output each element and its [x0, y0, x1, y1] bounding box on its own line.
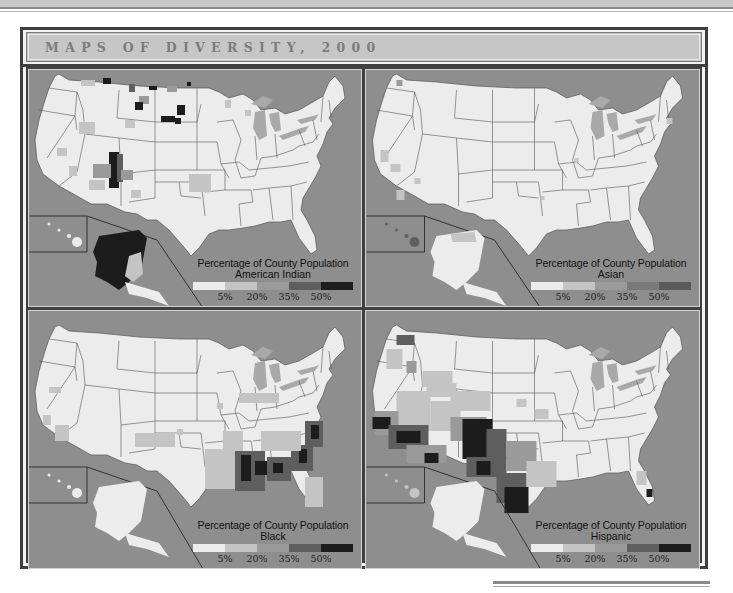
swatch-0-5 — [193, 282, 225, 290]
tick-35: 35% — [616, 291, 637, 302]
legend-ticks: 5% 20% 35% 50% — [193, 552, 353, 564]
page-title: MAPS OF DIVERSITY, 2000 — [45, 40, 382, 55]
map-panel-american-indian: Percentage of County Population American… — [28, 69, 362, 307]
swatch-5-20 — [225, 282, 257, 290]
swatch-50-plus — [659, 282, 691, 290]
legend-asian: Percentage of County Population Asian 5%… — [531, 258, 691, 302]
tick-5: 5% — [217, 553, 232, 564]
swatch-0-5 — [531, 282, 563, 290]
swatch-5-20 — [563, 544, 595, 552]
swatch-50-plus — [321, 544, 353, 552]
swatch-50-plus — [659, 544, 691, 552]
tick-5: 5% — [217, 291, 232, 302]
legend-subtitle: Hispanic — [531, 531, 691, 542]
tick-20: 20% — [246, 291, 267, 302]
swatch-0-5 — [531, 544, 563, 552]
tick-5: 5% — [555, 553, 570, 564]
tick-50: 50% — [310, 553, 331, 564]
swatch-35-50 — [627, 544, 659, 552]
swatch-5-20 — [225, 544, 257, 552]
legend-ticks: 5% 20% 35% 50% — [531, 290, 691, 302]
swatch-20-35 — [257, 544, 289, 552]
figure-frame: MAPS OF DIVERSITY, 2000 — [20, 27, 708, 569]
legend-scale — [193, 282, 353, 290]
tick-20: 20% — [246, 553, 267, 564]
swatch-0-5 — [193, 544, 225, 552]
map-grid: Percentage of County Population American… — [26, 67, 702, 563]
swatch-50-plus — [321, 282, 353, 290]
legend-subtitle: Asian — [531, 269, 691, 280]
legend-ticks: 5% 20% 35% 50% — [193, 290, 353, 302]
decorative-rule — [493, 581, 710, 588]
tick-50: 50% — [310, 291, 331, 302]
map-panel-hispanic: Percentage of County Population Hispanic… — [365, 310, 700, 569]
swatch-35-50 — [289, 544, 321, 552]
tick-20: 20% — [584, 553, 605, 564]
swatch-20-35 — [595, 544, 627, 552]
legend-subtitle: Black — [193, 531, 353, 542]
legend-hispanic: Percentage of County Population Hispanic… — [531, 520, 691, 564]
map-panel-asian: Percentage of County Population Asian 5%… — [365, 69, 700, 307]
swatch-5-20 — [563, 282, 595, 290]
swatch-20-35 — [257, 282, 289, 290]
legend-ticks: 5% 20% 35% 50% — [531, 552, 691, 564]
tick-35: 35% — [278, 291, 299, 302]
tick-20: 20% — [584, 291, 605, 302]
tick-5: 5% — [555, 291, 570, 302]
legend-black: Percentage of County Population Black 5%… — [193, 520, 353, 564]
tick-50: 50% — [648, 553, 669, 564]
figure-inner: MAPS OF DIVERSITY, 2000 — [23, 30, 705, 566]
top-border-band — [0, 0, 733, 9]
map-panel-black: Percentage of County Population Black 5%… — [28, 310, 362, 569]
tick-50: 50% — [648, 291, 669, 302]
tick-35: 35% — [616, 553, 637, 564]
legend-american-indian: Percentage of County Population American… — [193, 258, 353, 302]
legend-subtitle: American Indian — [193, 269, 353, 280]
swatch-20-35 — [595, 282, 627, 290]
swatch-35-50 — [289, 282, 321, 290]
legend-scale — [531, 544, 691, 552]
title-bar: MAPS OF DIVERSITY, 2000 — [26, 32, 702, 62]
legend-scale — [193, 544, 353, 552]
tick-35: 35% — [278, 553, 299, 564]
legend-scale — [531, 282, 691, 290]
swatch-35-50 — [627, 282, 659, 290]
